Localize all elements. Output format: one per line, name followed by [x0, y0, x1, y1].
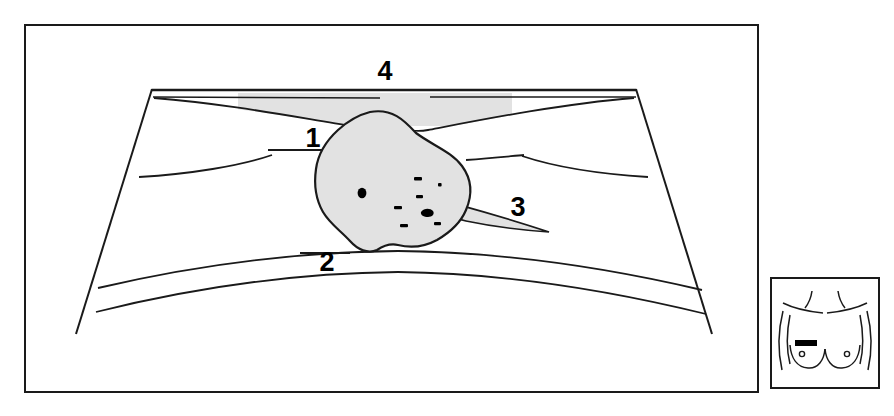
calcification-dot-small — [438, 183, 442, 186]
calcification-dash — [394, 206, 402, 209]
calcification-dash — [434, 222, 441, 225]
calcification-dash — [414, 177, 422, 180]
label-4: 4 — [377, 56, 392, 86]
label-1: 1 — [305, 123, 320, 153]
body-location-inset — [771, 278, 879, 388]
lesion-location-marker — [795, 340, 817, 346]
label-3: 3 — [510, 192, 525, 222]
calcification-dash — [400, 224, 408, 227]
label-2: 2 — [319, 247, 334, 277]
calcification-dash — [416, 195, 423, 198]
calcification-dot-large — [358, 188, 367, 198]
anatomical-diagram-svg: 1 2 3 4 — [0, 0, 894, 416]
figure-root: 1 2 3 4 — [0, 0, 894, 416]
